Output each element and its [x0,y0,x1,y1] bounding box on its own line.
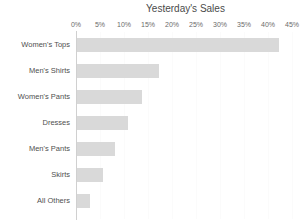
bar [77,194,90,208]
x-tick-label: 0% [71,19,81,31]
category-label: All Others [0,188,70,214]
x-tick-label: 45% [285,19,299,31]
bar-row: All Others [0,188,307,214]
bar [77,116,128,130]
bar-rows: Women's TopsMen's ShirtsWomen's PantsDre… [0,32,307,219]
bar [77,142,115,156]
category-label: Men's Pants [0,136,70,162]
x-axis-tick-labels: 0%5%10%15%20%25%30%35%40%45% [76,19,292,31]
category-label: Women's Tops [0,32,70,58]
bar-row: Men's Shirts [0,58,307,84]
bar [77,168,103,182]
x-tick-label: 5% [95,19,105,31]
chart-title: Yesterday's Sales [76,2,295,16]
x-tick-label: 20% [165,19,179,31]
x-tick-label: 10% [117,19,131,31]
bar-row: Women's Tops [0,32,307,58]
category-label: Skirts [0,162,70,188]
x-tick-label: 15% [141,19,155,31]
x-tick-label: 35% [237,19,251,31]
bar-chart: Yesterday's Sales 0%5%10%15%20%25%30%35%… [0,0,307,223]
bar [77,64,159,78]
category-label: Dresses [0,110,70,136]
x-tick-label: 25% [189,19,203,31]
bar-row: Dresses [0,110,307,136]
x-tick-label: 40% [261,19,275,31]
bar [77,38,279,52]
bar-row: Women's Pants [0,84,307,110]
bar-row: Men's Pants [0,136,307,162]
category-label: Men's Shirts [0,58,70,84]
bar-row: Skirts [0,162,307,188]
category-label: Women's Pants [0,84,70,110]
x-tick-label: 30% [213,19,227,31]
bar [77,90,142,104]
